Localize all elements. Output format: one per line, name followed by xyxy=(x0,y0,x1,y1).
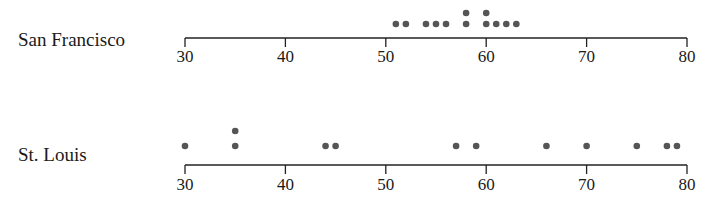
data-dot xyxy=(473,143,480,150)
dot-plot-st-louis: St. Louis304050607080 xyxy=(18,128,696,194)
series-label: San Francisco xyxy=(18,29,125,50)
data-dot xyxy=(443,21,450,28)
series-label: St. Louis xyxy=(18,144,87,165)
data-dot xyxy=(463,10,470,17)
tick-label: 60 xyxy=(478,47,495,66)
tick-label: 60 xyxy=(478,175,495,194)
data-dot xyxy=(493,21,500,28)
tick-label: 50 xyxy=(377,47,394,66)
data-dot xyxy=(674,143,681,150)
data-dot xyxy=(513,21,520,28)
data-dot xyxy=(182,143,189,150)
data-dot xyxy=(453,143,460,150)
data-dot xyxy=(463,21,470,28)
tick-label: 80 xyxy=(679,47,696,66)
data-dot xyxy=(423,21,430,28)
tick-label: 50 xyxy=(377,175,394,194)
tick-label: 30 xyxy=(177,175,194,194)
data-dot xyxy=(393,21,400,28)
data-dot xyxy=(332,143,339,150)
tick-label: 30 xyxy=(177,47,194,66)
tick-label: 40 xyxy=(277,175,294,194)
data-dot xyxy=(483,21,490,28)
data-dot xyxy=(433,21,440,28)
dot-plot: San Francisco304050607080St. Louis304050… xyxy=(0,0,709,207)
data-dot xyxy=(634,143,641,150)
tick-label: 40 xyxy=(277,47,294,66)
dot-plot-san-francisco: San Francisco304050607080 xyxy=(18,10,696,66)
tick-label: 70 xyxy=(578,175,595,194)
data-dot xyxy=(232,143,239,150)
data-dot xyxy=(403,21,410,28)
data-dot xyxy=(543,143,550,150)
tick-label: 80 xyxy=(679,175,696,194)
data-dot xyxy=(583,143,590,150)
data-dot xyxy=(322,143,329,150)
data-dot xyxy=(503,21,510,28)
data-dot xyxy=(664,143,671,150)
data-dot xyxy=(483,10,490,17)
data-dot xyxy=(232,128,239,135)
tick-label: 70 xyxy=(578,47,595,66)
